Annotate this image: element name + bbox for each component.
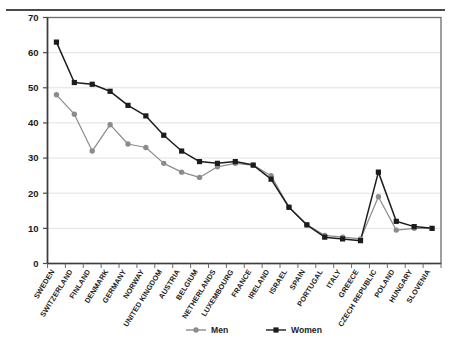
data-point-marker-women: [72, 80, 77, 85]
data-point-marker-women: [286, 205, 291, 210]
y-axis-tick-label: 70: [28, 12, 39, 23]
data-point-marker-women: [340, 236, 345, 241]
data-point-marker-men: [161, 161, 166, 166]
data-point-marker-men: [72, 111, 77, 116]
grid-lines: [48, 18, 442, 229]
data-point-marker-women: [394, 219, 399, 224]
chart-container: 010203040506070 SWEDENSWITZERLANDFINLAND…: [0, 0, 451, 344]
x-axis-category-label: ITALY: [324, 268, 342, 290]
data-point-marker-women: [161, 133, 166, 138]
legend-marker-men: [193, 327, 198, 332]
data-point-marker-women: [233, 159, 238, 164]
data-point-marker-women: [179, 148, 184, 153]
data-point-marker-women: [90, 82, 95, 87]
data-point-marker-women: [197, 159, 202, 164]
series-lines: [54, 40, 435, 244]
data-point-marker-women: [304, 222, 309, 227]
data-point-marker-women: [412, 224, 417, 229]
y-axis-tick-label: 30: [28, 152, 39, 163]
data-point-marker-women: [143, 113, 148, 118]
legend-label-men: Men: [211, 325, 228, 335]
series-line-men: [56, 95, 432, 239]
data-point-marker-men: [107, 122, 112, 127]
data-point-marker-women: [108, 89, 113, 94]
data-point-marker-men: [376, 194, 381, 199]
legend-label-women: Women: [291, 325, 322, 335]
y-axis-tick-label: 50: [28, 82, 39, 93]
x-axis-category-label: ISRAEL: [267, 267, 289, 295]
data-point-marker-women: [322, 235, 327, 240]
data-point-marker-women: [376, 170, 381, 175]
data-point-marker-women: [268, 177, 273, 182]
y-axis-tick-label: 0: [33, 258, 38, 269]
data-point-marker-men: [90, 148, 95, 153]
data-point-marker-men: [179, 169, 184, 174]
data-point-marker-women: [215, 161, 220, 166]
data-point-marker-men: [125, 141, 130, 146]
data-point-marker-women: [358, 238, 363, 243]
y-axis-tick-labels: 010203040506070: [28, 12, 48, 269]
data-point-marker-women: [251, 163, 256, 168]
plot-border: [48, 18, 442, 264]
data-point-marker-women: [125, 103, 130, 108]
data-point-marker-women: [54, 40, 59, 45]
line-chart-svg: 010203040506070 SWEDENSWITZERLANDFINLAND…: [0, 0, 451, 344]
series-line-women: [56, 42, 432, 241]
data-point-marker-women: [429, 226, 434, 231]
y-axis-tick-label: 60: [28, 47, 39, 58]
data-point-marker-men: [54, 92, 59, 97]
y-axis-tick-label: 20: [28, 188, 39, 199]
y-axis-tick-label: 40: [28, 117, 39, 128]
y-axis-tick-label: 10: [28, 223, 39, 234]
data-point-marker-men: [394, 227, 399, 232]
plot-frame: [48, 18, 442, 264]
data-point-marker-men: [197, 175, 202, 180]
chart-legend: MenWomen: [186, 325, 322, 335]
data-point-marker-men: [143, 145, 148, 150]
x-axis-category-labels: SWEDENSWITZERLANDFINLANDDENMARKGERMANYNO…: [32, 267, 433, 328]
legend-marker-women: [273, 327, 278, 332]
